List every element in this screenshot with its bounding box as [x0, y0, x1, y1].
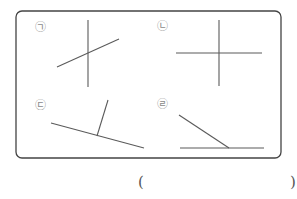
label-c: ㉢	[35, 100, 46, 111]
label-d: ㉣	[157, 99, 168, 110]
answer-close-paren: )	[290, 175, 296, 190]
figure-stage: ㉠ ㉡ ㉢ ㉣ ( )	[0, 0, 297, 199]
answer-open-paren: (	[138, 175, 144, 190]
panel-a	[57, 20, 119, 87]
panel-c	[51, 100, 144, 148]
panel-b	[176, 20, 262, 86]
answer-blank[interactable]	[150, 175, 288, 191]
panel-d-line-2	[179, 115, 229, 148]
panel-c-line-2	[97, 100, 108, 136]
figure-frame	[16, 11, 281, 158]
panel-d	[179, 115, 264, 148]
label-a: ㉠	[35, 22, 46, 33]
label-b: ㉡	[157, 21, 168, 32]
